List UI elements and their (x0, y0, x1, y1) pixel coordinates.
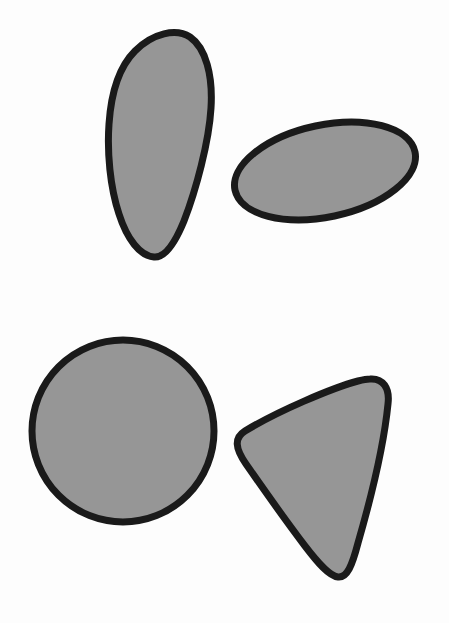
shapes-svg (0, 0, 449, 623)
circle (32, 340, 214, 522)
background-rect (0, 0, 449, 623)
shapes-canvas-container (0, 0, 449, 623)
